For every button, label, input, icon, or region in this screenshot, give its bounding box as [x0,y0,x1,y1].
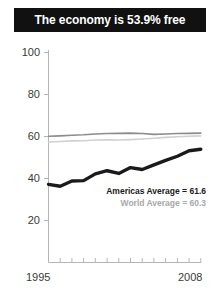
series-line-world-average [49,136,201,142]
y-tick-label-80: 80 [12,89,40,100]
y-tick-label-100: 100 [12,47,40,58]
x-tick-label-start: 1995 [26,272,50,283]
x-tick-label-end: 2008 [178,272,202,283]
series-line-country-score [49,149,201,186]
annotation-americas-average: Americas Average = 61.6 [106,186,206,196]
y-tick-label-40: 40 [12,173,40,184]
annotation-world-average: World Average = 60.3 [121,198,206,208]
y-tick-label-20: 20 [12,215,40,226]
y-tick-label-60: 60 [12,131,40,142]
series-line-americas-average [49,133,201,136]
x-tick-marks [49,258,201,263]
economic-freedom-chart: The economy is 53.9% free [0,0,218,301]
